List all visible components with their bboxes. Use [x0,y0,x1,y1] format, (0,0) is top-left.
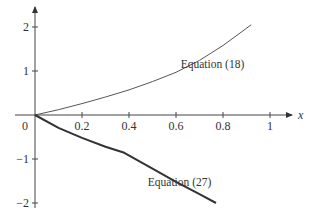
annotation-label-2: Equation (27) [148,176,212,189]
origin-label: 0 [22,119,28,133]
x-axis-label: x [297,108,304,122]
y-tick-label: 1 [23,64,29,78]
chart: x0 0.20.40.60.81−2−112 Equation (18)Equa… [0,0,329,223]
x-tick-label: 0.4 [122,119,137,133]
y-tick-label: −2 [16,196,29,210]
series-group [35,25,251,203]
annotation-label-1: Equation (18) [181,58,245,71]
x-tick-label: 0.8 [216,119,231,133]
y-tick-label: 2 [23,20,29,34]
x-tick-label: 0.2 [75,119,90,133]
x-tick-label: 0.6 [169,119,184,133]
y-tick-label: −1 [16,152,29,166]
x-tick-label: 1 [267,119,273,133]
